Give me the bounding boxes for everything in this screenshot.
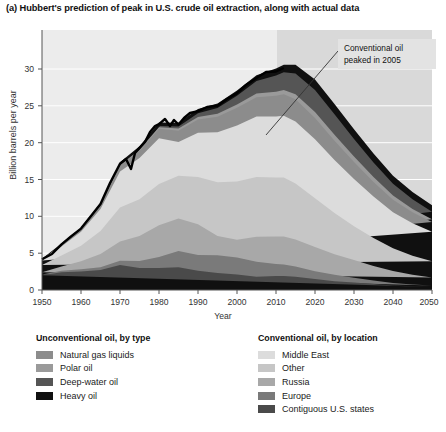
y-tick-labels: 0 5 10 15 20 25 30 — [24, 64, 34, 295]
swatch-russia — [258, 378, 275, 386]
legend-label-heavy-oil: Heavy oil — [60, 391, 97, 401]
legend-item-contiguous-us-states[interactable]: Contiguous U.S. states — [258, 402, 378, 416]
legend-conventional: Conventional oil, by location Middle Eas… — [258, 333, 378, 416]
swatch-heavy-oil — [36, 392, 53, 400]
stacked-area-chart: 0 5 10 15 20 25 30 1950 1960 1970 1980 1… — [0, 22, 446, 322]
x-tick-1970: 1970 — [110, 297, 129, 307]
legend-item-europe[interactable]: Europe — [258, 389, 378, 403]
swatch-deep-water-oil — [36, 378, 53, 386]
legend-item-russia[interactable]: Russia — [258, 375, 378, 389]
y-tick-10: 10 — [24, 211, 34, 221]
y-tick-5: 5 — [29, 248, 34, 258]
x-tick-2050: 2050 — [419, 297, 438, 307]
y-tick-30: 30 — [24, 64, 34, 74]
y-tick-20: 20 — [24, 138, 34, 148]
legend-item-other[interactable]: Other — [258, 362, 378, 376]
legend-unconventional: Unconventional oil, by type Natural gas … — [36, 333, 150, 402]
legend-label-russia: Russia — [282, 377, 310, 387]
x-tick-2020: 2020 — [305, 297, 324, 307]
x-tick-2010: 2010 — [266, 297, 285, 307]
legend-item-heavy-oil[interactable]: Heavy oil — [36, 389, 150, 403]
legend-item-middle-east[interactable]: Middle East — [258, 348, 378, 362]
legend-item-deep-water-oil[interactable]: Deep-water oil — [36, 375, 150, 389]
legend-unconventional-title: Unconventional oil, by type — [36, 333, 150, 343]
swatch-middle-east — [258, 351, 275, 359]
y-tick-25: 25 — [24, 101, 34, 111]
x-tick-1980: 1980 — [149, 297, 168, 307]
legend-label-contiguous-us-states: Contiguous U.S. states — [282, 404, 374, 414]
legend-label-europe: Europe — [282, 391, 311, 401]
swatch-polar-oil — [36, 364, 53, 372]
x-tick-1950: 1950 — [32, 297, 51, 307]
swatch-europe — [258, 392, 275, 400]
swatch-other — [258, 364, 275, 372]
legend-label-natural-gas-liquids: Natural gas liquids — [60, 350, 134, 360]
legend-conventional-title: Conventional oil, by location — [258, 333, 378, 343]
y-axis-label: Billion barrels per year — [8, 60, 18, 210]
x-axis-label: Year — [0, 311, 446, 321]
page-title: (a) Hubbert's prediction of peak in U.S.… — [6, 3, 442, 13]
annotation-line-1: Conventional oil — [344, 43, 403, 53]
swatch-contiguous-us-states — [258, 405, 275, 413]
chart-canvas: 0 5 10 15 20 25 30 1950 1960 1970 1980 1… — [0, 22, 446, 300]
y-tick-15: 15 — [24, 175, 34, 185]
legend-label-polar-oil: Polar oil — [60, 363, 93, 373]
x-tick-labels: 1950 1960 1970 1980 1990 2000 2010 2020 … — [32, 297, 438, 307]
y-tick-0: 0 — [29, 285, 34, 295]
legend-item-natural-gas-liquids[interactable]: Natural gas liquids — [36, 348, 150, 362]
x-tick-2000: 2000 — [227, 297, 246, 307]
x-tick-1990: 1990 — [188, 297, 207, 307]
legend-label-deep-water-oil: Deep-water oil — [60, 377, 118, 387]
annotation-line-2: peaked in 2005 — [344, 55, 401, 65]
x-tick-1960: 1960 — [71, 297, 90, 307]
x-tick-2030: 2030 — [344, 297, 363, 307]
swatch-natural-gas-liquids — [36, 351, 53, 359]
legend-label-other: Other — [282, 363, 305, 373]
x-tick-2040: 2040 — [383, 297, 402, 307]
legend-item-polar-oil[interactable]: Polar oil — [36, 362, 150, 376]
legend-label-middle-east: Middle East — [282, 350, 329, 360]
